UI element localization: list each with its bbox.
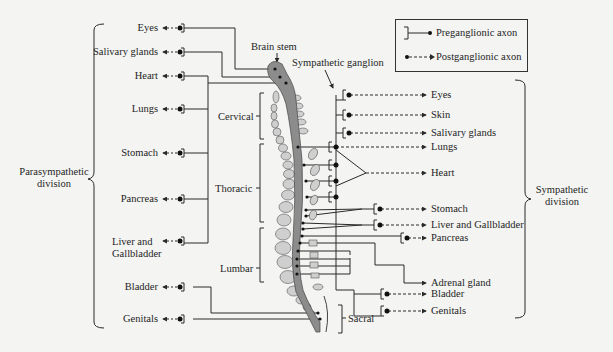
para-target-salivary-glands: Salivary glands <box>93 46 158 58</box>
symp-target-pancreas: Pancreas <box>431 232 468 244</box>
sacral-label: Sacral <box>348 313 374 325</box>
para-target-stomach: Stomach <box>121 147 158 159</box>
parasympathetic-division-label: Parasympathetic division <box>18 166 90 190</box>
cervical-label: Cervical <box>218 111 254 123</box>
para-target-genitals: Genitals <box>123 313 158 325</box>
sympathetic-ganglion-label: Sympathetic ganglion <box>292 57 384 69</box>
para-target-bladder: Bladder <box>125 281 158 293</box>
bracket-line-dot-icon <box>404 27 428 39</box>
para-target-liver-gallbladder: Liver and Gallbladder <box>112 236 162 260</box>
symp-target-liver-gallbladder: Liver and Gallbladder <box>431 219 524 231</box>
para-target-heart: Heart <box>135 70 158 82</box>
thoracic-label: Thoracic <box>215 183 252 195</box>
symp-target-bladder: Bladder <box>431 288 464 300</box>
symp-target-skin: Skin <box>431 109 450 121</box>
symp-target-eyes: Eyes <box>431 89 451 101</box>
symp-target-salivary-glands: Salivary glands <box>431 127 496 139</box>
legend-postganglionic-label: Postganglionic axon <box>436 51 521 63</box>
brain-stem-label: Brain stem <box>251 41 297 53</box>
legend-preganglionic-label: Preganglionic axon <box>436 27 517 39</box>
symp-target-stomach: Stomach <box>431 203 468 215</box>
para-target-eyes: Eyes <box>138 22 158 34</box>
sympathetic-division-label: Sympathetic division <box>532 184 592 208</box>
para-target-lungs: Lungs <box>132 103 158 115</box>
para-target-pancreas: Pancreas <box>121 193 158 205</box>
symp-target-heart: Heart <box>431 167 454 179</box>
symp-target-lungs: Lungs <box>431 141 457 153</box>
dot-dashed-arrow-icon <box>405 55 409 59</box>
symp-target-genitals: Genitals <box>431 305 466 317</box>
lumbar-label: Lumbar <box>220 263 253 275</box>
